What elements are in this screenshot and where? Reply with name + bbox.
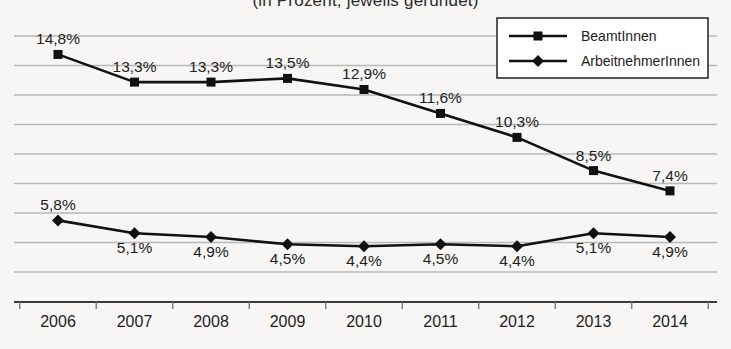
x-tick-label-2012: 2012 (499, 313, 535, 330)
data-label: 11,6% (419, 89, 462, 106)
data-label: 10,3% (495, 113, 539, 130)
data-point-marker (54, 50, 63, 59)
data-label: 4,5% (423, 250, 459, 267)
data-label: 12,9% (342, 65, 386, 82)
data-point-marker (588, 227, 600, 239)
data-point-marker (283, 74, 292, 83)
data-point-marker (282, 238, 294, 250)
x-tick-label-2007: 2007 (117, 313, 153, 330)
data-label: 13,3% (189, 58, 233, 75)
data-label: 5,1% (576, 239, 612, 256)
data-label: 13,3% (113, 58, 157, 75)
chart-container: (in Prozent, jeweils gerundet) 5,8%5,1%4… (0, 0, 731, 349)
data-label: 4,5% (270, 250, 306, 267)
data-point-marker (666, 186, 675, 195)
data-point-marker (130, 78, 139, 87)
data-label: 4,9% (193, 243, 229, 260)
legend-marker-square (534, 32, 543, 41)
data-label: 14,8% (36, 30, 80, 47)
data-point-marker (52, 214, 64, 226)
legend-box (497, 18, 708, 78)
data-point-marker (129, 227, 141, 239)
data-label: 5,1% (117, 239, 153, 256)
data-point-marker (207, 78, 216, 87)
data-point-marker (513, 133, 522, 142)
data-point-marker (589, 166, 598, 175)
x-axis-group (14, 302, 717, 309)
x-tick-label-2013: 2013 (576, 313, 612, 330)
x-tick-label-2011: 2011 (423, 313, 458, 330)
x-tick-labels-group: 200620072008200920102011201220132014 (40, 313, 688, 330)
data-point-marker (664, 231, 676, 243)
x-tick-label-2010: 2010 (346, 313, 382, 330)
x-tick-label-2008: 2008 (193, 313, 229, 330)
data-label: 7,4% (652, 167, 688, 184)
data-point-marker (360, 85, 369, 94)
data-label: 4,4% (499, 252, 535, 269)
x-tick-label-2014: 2014 (652, 313, 688, 330)
line-chart: 5,8%5,1%4,9%4,5%4,4%4,5%4,4%5,1%4,9%14,8… (0, 0, 731, 349)
data-point-marker (205, 231, 217, 243)
x-tick-label-2006: 2006 (40, 313, 76, 330)
x-tick-label-2009: 2009 (270, 313, 306, 330)
data-point-marker (436, 109, 445, 118)
data-label: 5,8% (40, 196, 76, 213)
data-label: 4,4% (346, 252, 382, 269)
chart-legend[interactable]: BeamtInnenArbeitnehmerInnen (497, 18, 708, 78)
legend-label-beamtinnen[interactable]: BeamtInnen (581, 28, 657, 44)
data-label: 4,9% (652, 243, 688, 260)
data-point-marker (435, 238, 447, 250)
data-label: 13,5% (266, 54, 310, 71)
legend-label-arbeitnehmerinnen[interactable]: ArbeitnehmerInnen (581, 53, 700, 69)
data-label: 8,5% (576, 147, 612, 164)
